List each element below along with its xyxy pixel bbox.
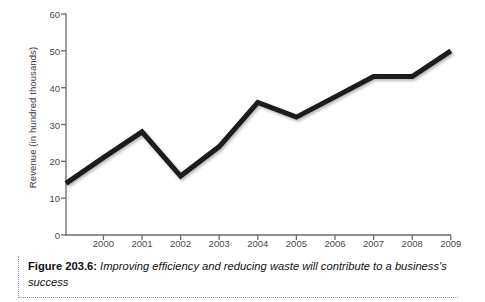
figure-caption-label: Figure 203.6:: [28, 260, 97, 272]
chart-area: Revenue (in hundred thousands) 0 10 20 3…: [0, 0, 485, 250]
line-chart-plot: [0, 0, 485, 250]
figure-container: Revenue (in hundred thousands) 0 10 20 3…: [0, 0, 485, 302]
figure-caption-text: Figure 203.6: Improving efficiency and r…: [28, 259, 452, 290]
y-axis-ticks: [61, 14, 66, 235]
x-axis-ticks: [103, 235, 450, 240]
revenue-series-line: [66, 51, 451, 184]
figure-caption-box: Figure 203.6: Improving efficiency and r…: [18, 256, 458, 298]
